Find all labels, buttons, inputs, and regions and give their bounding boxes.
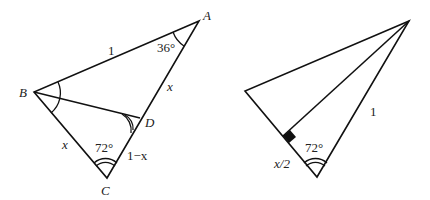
- right-angle-marker-icon: [283, 130, 296, 143]
- label-side-one: 1: [370, 104, 377, 119]
- label-side-dc: 1−x: [127, 148, 148, 163]
- label-angle-a: 36°: [157, 40, 175, 55]
- label-side-bc: x: [61, 137, 68, 152]
- label-vertex-d: D: [144, 115, 155, 130]
- right-triangle: 1 x/2 72°: [245, 21, 409, 177]
- angle-arc-d-outer: [122, 114, 131, 133]
- angle-arc-bottom-inner: [306, 162, 325, 166]
- label-vertex-a: A: [202, 8, 211, 23]
- label-side-ad: x: [166, 79, 173, 94]
- label-angle-c: 72°: [95, 140, 113, 155]
- angle-arc-c-inner: [96, 162, 115, 166]
- label-angle-bottom: 72°: [305, 140, 323, 155]
- left-triangle: A B C D 1 x x 1−x 36° 72°: [19, 8, 211, 198]
- altitude-line: [283, 21, 409, 136]
- label-vertex-c: C: [101, 183, 110, 198]
- label-vertex-b: B: [19, 85, 27, 100]
- geometry-figure: A B C D 1 x x 1−x 36° 72° 1 x/2 72°: [0, 0, 430, 200]
- label-side-half-x: x/2: [273, 156, 290, 171]
- segment-bd: [34, 92, 140, 118]
- label-side-ab: 1: [108, 43, 115, 58]
